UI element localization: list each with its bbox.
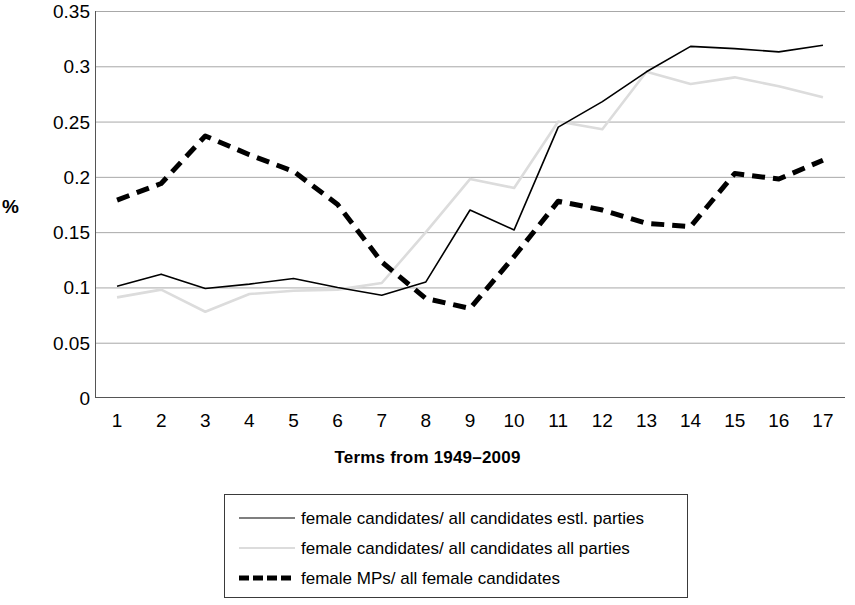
x-tick-label: 17	[803, 410, 843, 432]
series-line-3	[117, 136, 823, 308]
legend-item[interactable]: female MPs/ all female candidates	[225, 563, 687, 593]
y-axis: 0.350.30.250.20.150.10.050	[18, 0, 90, 410]
x-axis-title: Terms from 1949–2009	[0, 448, 855, 468]
x-tick-label: 11	[538, 410, 578, 432]
plot-svg	[95, 11, 845, 398]
x-tick-label: 2	[141, 410, 181, 432]
y-tick-label: 0.25	[30, 113, 90, 132]
y-tick-label: 0.15	[30, 223, 90, 242]
x-tick-label: 14	[671, 410, 711, 432]
x-tick-label: 13	[626, 410, 666, 432]
y-axis-title: %	[2, 196, 19, 218]
x-tick-label: 16	[759, 410, 799, 432]
legend-item-label: female candidates/ all candidates all pa…	[301, 539, 630, 558]
x-axis: 1234567891011121314151617	[95, 410, 845, 436]
legend-item-label: female candidates/ all candidates estl. …	[301, 509, 644, 528]
legend-item-label: female MPs/ all female candidates	[301, 569, 560, 588]
y-tick-label: 0	[30, 389, 90, 408]
x-tick-label: 4	[229, 410, 269, 432]
y-tick-label: 0.1	[30, 278, 90, 297]
x-tick-label: 9	[450, 410, 490, 432]
x-tick-label: 3	[185, 410, 225, 432]
dashed-line-icon	[239, 571, 295, 585]
x-tick-label: 5	[274, 410, 314, 432]
legend-item[interactable]: female candidates/ all candidates estl. …	[225, 503, 687, 533]
x-tick-label: 1	[97, 410, 137, 432]
x-tick-label: 7	[362, 410, 402, 432]
plot-area	[95, 11, 845, 398]
y-tick-label: 0.3	[30, 57, 90, 76]
x-tick-label: 12	[582, 410, 622, 432]
x-tick-label: 15	[715, 410, 755, 432]
solid-line-icon	[239, 511, 295, 525]
y-tick-label: 0.35	[30, 2, 90, 21]
x-tick-label: 8	[406, 410, 446, 432]
x-tick-label: 10	[494, 410, 534, 432]
legend: female candidates/ all candidates estl. …	[224, 494, 688, 598]
series-line-1	[117, 45, 823, 295]
chart-figure: 0.350.30.250.20.150.10.050 % 12345678910…	[0, 0, 855, 605]
legend-item[interactable]: female candidates/ all candidates all pa…	[225, 533, 687, 563]
series-line-2	[117, 72, 823, 312]
x-tick-label: 6	[318, 410, 358, 432]
y-tick-label: 0.2	[30, 168, 90, 187]
gray-line-icon	[239, 541, 295, 555]
y-tick-label: 0.05	[30, 334, 90, 353]
